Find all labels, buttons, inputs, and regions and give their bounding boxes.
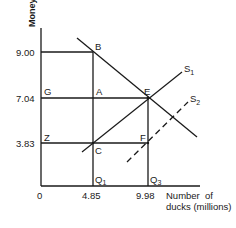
quantity-label-q1: Q1 (95, 174, 106, 186)
x-tick-4-85: 4.85 (82, 190, 101, 201)
quantity-label-q3: Q3 (150, 174, 161, 186)
point-label-e: E (144, 86, 150, 97)
point-label-b: B (95, 41, 101, 52)
origin-label: 0 (37, 190, 42, 201)
x-axis-label-line1: Number of (166, 190, 213, 201)
curve-label-s1: S1 (184, 63, 194, 76)
point-label-a: A (96, 86, 103, 97)
point-e-marker (147, 97, 150, 100)
x-axis-label-line2: ducks (millions) (166, 201, 231, 212)
point-label-f: F (140, 132, 146, 143)
y-tick-3-83: 3.83 (16, 138, 35, 149)
point-label-c: C (95, 145, 102, 156)
supply-curve-s2 (127, 102, 188, 162)
point-label-g: G (44, 86, 51, 97)
demand-curve (77, 38, 197, 137)
point-f-marker (147, 142, 149, 144)
supply-demand-diagram: Money 9.00 7.04 3.83 0 4.85 9.98 Number … (0, 0, 236, 228)
y-axis-label: Money (27, 0, 37, 27)
x-tick-9-98: 9.98 (136, 190, 155, 201)
point-c-marker (92, 142, 94, 144)
point-label-z: Z (44, 132, 50, 143)
y-tick-9-00: 9.00 (16, 47, 35, 58)
y-tick-7-04: 7.04 (16, 93, 35, 104)
curve-label-s2: S2 (190, 93, 200, 106)
